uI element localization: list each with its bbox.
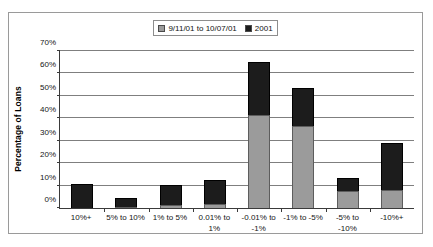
x-axis-label: 10%+ bbox=[59, 213, 103, 234]
x-axis-label: 1% to 5% bbox=[148, 213, 192, 234]
legend-label-series-1: 9/11/01 to 10/07/01 bbox=[168, 24, 236, 33]
x-axis-tick-mark bbox=[193, 208, 194, 212]
x-axis-label: -10%+ bbox=[370, 213, 414, 234]
legend-label-series-2: 2001 bbox=[255, 24, 273, 33]
legend-swatch-icon-series-1 bbox=[158, 25, 165, 32]
stacked-bar[interactable] bbox=[160, 185, 182, 208]
bar-segment-911-window[interactable] bbox=[204, 204, 226, 208]
bar-segment-2001[interactable] bbox=[381, 143, 403, 190]
chart-legend: 9/11/01 to 10/07/01 2001 bbox=[9, 20, 422, 36]
bar-segment-2001[interactable] bbox=[71, 184, 93, 208]
y-axis-tick-label: 30% bbox=[40, 127, 56, 136]
bar-segment-2001[interactable] bbox=[204, 180, 226, 205]
x-axis-labels: 10%+5% to 10%1% to 5%0.01% to 1%-0.01% t… bbox=[59, 213, 414, 234]
stacked-bar[interactable] bbox=[381, 143, 403, 208]
x-axis-tick-mark bbox=[104, 208, 105, 212]
bar-slot bbox=[326, 51, 370, 208]
bar-slot bbox=[281, 51, 325, 208]
bar-segment-911-window[interactable] bbox=[292, 126, 314, 208]
x-axis-tick-mark bbox=[237, 208, 238, 212]
chart-frame: 9/11/01 to 10/07/01 2001 Percentage of L… bbox=[8, 12, 423, 234]
y-axis-tick-label: 60% bbox=[40, 60, 56, 69]
stacked-bar[interactable] bbox=[71, 184, 93, 208]
x-axis-label: -5% to -10% bbox=[325, 213, 369, 234]
bar-slot bbox=[104, 51, 148, 208]
bar-segment-911-window[interactable] bbox=[160, 205, 182, 208]
x-axis-label: 0.01% to 1% bbox=[192, 213, 236, 234]
stacked-bar[interactable] bbox=[337, 178, 359, 208]
y-axis-tick-label: 40% bbox=[40, 105, 56, 114]
y-axis-tick-label: 10% bbox=[40, 172, 56, 181]
bar-slot bbox=[193, 51, 237, 208]
legend-entry-series-2: 2001 bbox=[245, 24, 273, 33]
legend-box: 9/11/01 to 10/07/01 2001 bbox=[153, 20, 277, 36]
bar-segment-911-window[interactable] bbox=[337, 191, 359, 208]
bar-segment-2001[interactable] bbox=[337, 178, 359, 191]
bar-segment-911-window[interactable] bbox=[115, 207, 137, 208]
stacked-bar[interactable] bbox=[204, 180, 226, 208]
y-axis-title-text: Percentage of Loans bbox=[13, 86, 23, 172]
legend-entry-series-1: 9/11/01 to 10/07/01 bbox=[158, 24, 236, 33]
x-axis-tick-mark bbox=[326, 208, 327, 212]
bar-segment-911-window[interactable] bbox=[381, 190, 403, 208]
bar-slot bbox=[370, 51, 414, 208]
x-axis-tick-mark bbox=[149, 208, 150, 212]
legend-swatch-icon-series-2 bbox=[245, 25, 252, 32]
bar-segment-911-window[interactable] bbox=[248, 115, 270, 208]
bar-segment-2001[interactable] bbox=[115, 198, 137, 207]
bar-slot bbox=[149, 51, 193, 208]
stacked-bar[interactable] bbox=[248, 62, 270, 208]
x-axis-label: -0.01% to -1% bbox=[237, 213, 281, 234]
y-axis-tick-label: 50% bbox=[40, 82, 56, 91]
x-axis-label: 5% to 10% bbox=[103, 213, 147, 234]
bar-segment-2001[interactable] bbox=[160, 185, 182, 204]
bar-slot bbox=[60, 51, 104, 208]
y-axis-title: Percentage of Loans bbox=[11, 49, 25, 209]
bar-slot bbox=[237, 51, 281, 208]
bar-segment-2001[interactable] bbox=[292, 88, 314, 126]
bar-segment-2001[interactable] bbox=[248, 62, 270, 114]
y-axis-tick-label: 70% bbox=[40, 38, 56, 47]
stacked-bar[interactable] bbox=[292, 88, 314, 208]
x-axis-tick-mark bbox=[370, 208, 371, 212]
bar-series-container bbox=[60, 51, 414, 208]
x-axis-label: -1% to -5% bbox=[281, 213, 325, 234]
y-axis-tick-label: 0% bbox=[44, 195, 56, 204]
plot-area: 0%10%20%30%40%50%60%70% bbox=[59, 51, 414, 209]
y-axis-tick-label: 20% bbox=[40, 150, 56, 159]
stacked-bar[interactable] bbox=[115, 198, 137, 208]
x-axis-tick-mark bbox=[281, 208, 282, 212]
